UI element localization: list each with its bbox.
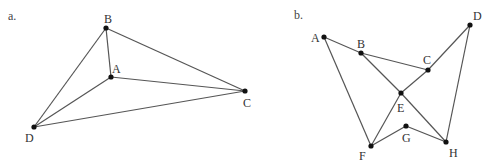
panel-a: a.ABCD bbox=[8, 9, 251, 145]
vertex-label-h: H bbox=[449, 146, 458, 160]
edge-d-h bbox=[446, 25, 470, 142]
vertex-label-e: E bbox=[397, 101, 404, 115]
panel-label: a. bbox=[8, 9, 16, 23]
panel-b: b.ABCDEFGH bbox=[294, 8, 482, 163]
vertex-d bbox=[467, 22, 472, 27]
vertex-f bbox=[368, 143, 373, 148]
edge-b-c bbox=[106, 28, 245, 91]
vertex-label-a: A bbox=[311, 31, 320, 45]
vertex-c bbox=[242, 88, 247, 93]
vertex-label-a: A bbox=[112, 62, 121, 76]
edge-a-d bbox=[34, 77, 111, 127]
edge-b-e bbox=[361, 53, 401, 93]
vertex-c bbox=[425, 67, 430, 72]
vertex-label-d: D bbox=[473, 9, 482, 23]
panel-label: b. bbox=[294, 8, 303, 22]
vertex-label-g: G bbox=[402, 131, 411, 145]
vertex-label-d: D bbox=[25, 131, 34, 145]
edge-b-c bbox=[361, 53, 428, 70]
edge-c-e bbox=[401, 70, 428, 93]
vertex-label-b: B bbox=[104, 12, 112, 26]
vertex-d bbox=[31, 124, 36, 129]
edge-g-h bbox=[406, 126, 446, 142]
vertex-b bbox=[103, 25, 108, 30]
vertex-label-c: C bbox=[243, 96, 251, 110]
vertex-h bbox=[443, 139, 448, 144]
vertex-label-c: C bbox=[423, 53, 431, 67]
vertex-label-b: B bbox=[357, 37, 365, 51]
edge-b-d bbox=[34, 28, 106, 127]
geometry-diagram: a.ABCD b.ABCDEFGH bbox=[0, 0, 487, 164]
vertex-e bbox=[398, 90, 403, 95]
edge-c-d bbox=[428, 25, 470, 70]
vertex-g bbox=[403, 123, 408, 128]
vertex-a bbox=[321, 34, 326, 39]
vertex-b bbox=[358, 50, 363, 55]
vertex-label-f: F bbox=[359, 149, 366, 163]
edge-a-c bbox=[111, 77, 245, 91]
edge-d-c bbox=[34, 91, 245, 127]
edge-b-a bbox=[106, 28, 111, 77]
